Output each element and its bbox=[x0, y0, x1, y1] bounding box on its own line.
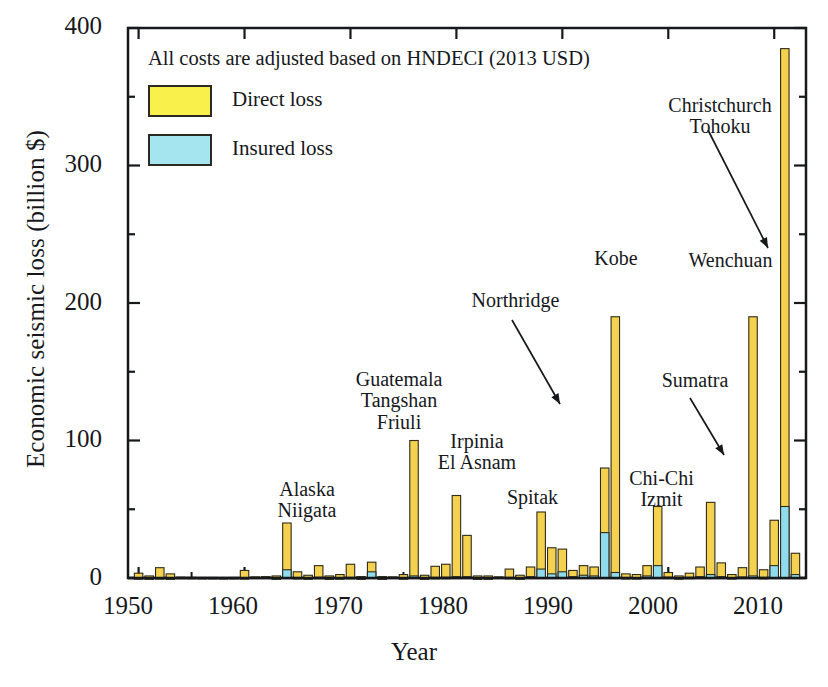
annotation-guatemala-tangshan-friuli: Guatemala Tangshan Friuli bbox=[334, 369, 464, 433]
leader-sumatra bbox=[690, 398, 724, 455]
x-tick-1980: 1980 bbox=[395, 592, 491, 620]
bar-insured-loss bbox=[537, 569, 545, 578]
annotation-line: Tohoku bbox=[630, 116, 810, 137]
y-tick-300: 300 bbox=[10, 150, 102, 178]
x-tick-1960: 1960 bbox=[185, 592, 281, 620]
annotation-line: Wenchuan bbox=[668, 250, 793, 271]
x-tick-1950: 1950 bbox=[80, 592, 176, 620]
x-tick-1970: 1970 bbox=[290, 592, 386, 620]
bar-direct-loss bbox=[452, 496, 460, 579]
y-tick-400: 400 bbox=[10, 12, 102, 40]
legend-label-insured-loss: Insured loss bbox=[232, 136, 333, 161]
annotation-line: Kobe bbox=[576, 248, 656, 269]
economic-seismic-loss-chart: Economic seismic loss (billion $) Year A… bbox=[0, 0, 828, 687]
legend-swatch-insured-loss bbox=[148, 134, 212, 166]
x-tick-1990: 1990 bbox=[500, 592, 596, 620]
x-tick-2000: 2000 bbox=[605, 592, 701, 620]
x-tick-2010: 2010 bbox=[710, 592, 806, 620]
bar-insured-loss bbox=[600, 533, 608, 578]
annotation-line: Spitak bbox=[480, 487, 585, 508]
bar-direct-loss bbox=[505, 569, 513, 578]
annotation-sumatra: Sumatra bbox=[640, 370, 750, 391]
chart-note: All costs are adjusted based on HNDECI (… bbox=[148, 47, 590, 70]
x-axis-title: Year bbox=[0, 638, 828, 666]
annotation-line: Friuli bbox=[334, 412, 464, 433]
annotation-line: Izmit bbox=[614, 489, 709, 510]
bar-direct-loss bbox=[463, 535, 471, 578]
annotation-line: Northridge bbox=[448, 290, 583, 311]
legend-label-direct-loss: Direct loss bbox=[232, 87, 322, 112]
bar-insured-loss bbox=[653, 566, 661, 578]
bar-direct-loss bbox=[346, 564, 354, 578]
annotation-christchurch-tohoku: Christchurch Tohoku bbox=[630, 95, 810, 138]
annotation-northridge: Northridge bbox=[448, 290, 583, 311]
annotation-line: Christchurch bbox=[630, 95, 810, 116]
y-tick-0: 0 bbox=[10, 563, 102, 591]
bar-direct-loss bbox=[706, 502, 714, 578]
leader-northridge bbox=[512, 320, 560, 404]
bar-direct-loss bbox=[156, 568, 164, 578]
bar-direct-loss bbox=[749, 317, 757, 578]
annotation-line: Alaska bbox=[252, 479, 362, 500]
bar-insured-loss bbox=[770, 566, 778, 578]
leader-christchurch-tohoku bbox=[708, 130, 768, 248]
legend-swatch-direct-loss bbox=[148, 85, 212, 117]
annotation-spitak: Spitak bbox=[480, 487, 585, 508]
bar-direct-loss bbox=[431, 566, 439, 578]
annotation-line: Irpinia bbox=[412, 431, 542, 452]
y-tick-100: 100 bbox=[10, 425, 102, 453]
annotation-irpinia-el-asnam: Irpinia El Asnam bbox=[412, 431, 542, 474]
y-tick-200: 200 bbox=[10, 288, 102, 316]
annotation-alaska-niigata: Alaska Niigata bbox=[252, 479, 362, 522]
annotation-wenchuan: Wenchuan bbox=[668, 250, 793, 271]
bar-direct-loss bbox=[314, 566, 322, 578]
annotation-line: Niigata bbox=[252, 500, 362, 521]
annotation-line: El Asnam bbox=[412, 452, 542, 473]
bar-direct-loss bbox=[442, 564, 450, 578]
bar-direct-loss bbox=[717, 563, 725, 578]
annotation-line: Guatemala bbox=[334, 369, 464, 390]
annotation-line: Tangshan bbox=[334, 390, 464, 411]
annotation-line: Chi-Chi bbox=[614, 468, 709, 489]
annotation-line: Sumatra bbox=[640, 370, 750, 391]
bar-insured-loss bbox=[781, 507, 789, 579]
bar-direct-loss bbox=[611, 317, 619, 578]
bar-direct-loss bbox=[537, 512, 545, 578]
annotation-chi-chi-izmit: Chi-Chi Izmit bbox=[614, 468, 709, 511]
annotation-kobe: Kobe bbox=[576, 248, 656, 269]
